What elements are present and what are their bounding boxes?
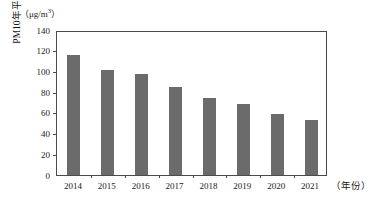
y-axis-tick-label: 0 [46, 170, 51, 182]
y-axis-unit-base: （μg/m [20, 9, 48, 19]
y-axis-tick-label: 20 [41, 149, 50, 161]
x-axis-tick [91, 175, 92, 178]
bar [305, 120, 318, 175]
y-axis-tick-mark [53, 93, 56, 94]
y-axis-unit-close: ） [51, 9, 60, 19]
x-axis-tick-label: 2021 [290, 180, 330, 192]
bar [135, 74, 148, 176]
y-axis-tick-label: 140 [37, 25, 51, 37]
y-axis-tick-mark [53, 51, 56, 52]
x-axis-tick [125, 175, 126, 178]
bar [203, 98, 216, 175]
y-axis-tick-label: 80 [41, 87, 50, 99]
y-axis-tick-label: 60 [41, 107, 50, 119]
plot-area [56, 31, 327, 176]
pm10-bar-chart: （μg/m3） PM10年平均浓度 020406080100120140 201… [0, 0, 386, 207]
bar [67, 55, 80, 175]
x-axis-tick [226, 175, 227, 178]
y-axis-tick-mark [53, 72, 56, 73]
x-axis-tick [294, 175, 295, 178]
bar [169, 87, 182, 175]
y-axis-title: PM10年平均浓度 [10, 0, 24, 62]
y-axis-unit-label: （μg/m3） [20, 7, 60, 20]
bar [271, 114, 284, 175]
bar [237, 104, 250, 175]
x-axis-tick [260, 175, 261, 178]
y-axis-tick-mark [53, 113, 56, 114]
bar [101, 70, 114, 175]
x-axis-tick [193, 175, 194, 178]
y-axis-tick-label: 100 [37, 66, 51, 78]
y-axis-tick-label: 120 [37, 45, 51, 57]
x-axis-title: （年份） [331, 180, 371, 192]
x-axis-tick [159, 175, 160, 178]
bars-layer [57, 32, 326, 175]
y-axis-tick-mark [53, 155, 56, 156]
y-axis-tick-mark [53, 134, 56, 135]
y-axis-tick-label: 40 [41, 128, 50, 140]
